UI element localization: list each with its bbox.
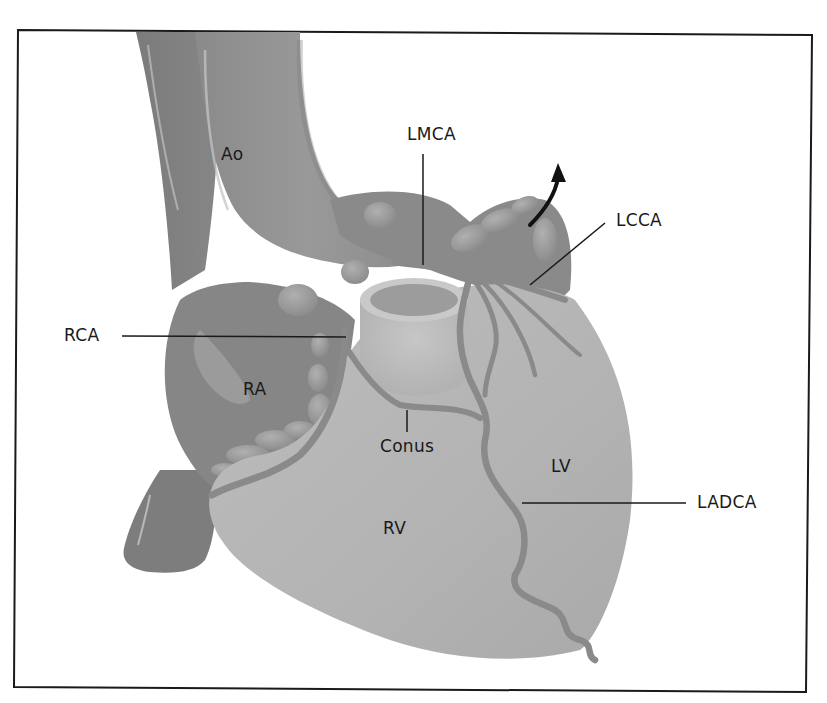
rca-leader <box>122 336 346 337</box>
label-conus: Conus <box>380 438 434 455</box>
label-lmca: LMCA <box>407 126 456 143</box>
label-right-ventricle: RV <box>383 520 406 537</box>
label-aorta: Ao <box>221 146 243 163</box>
label-right-atrium: RA <box>243 381 266 398</box>
label-rca: RCA <box>64 327 99 344</box>
label-ladca: LADCA <box>697 494 757 511</box>
label-lcca: LCCA <box>616 212 662 229</box>
heart-diagram: Ao LMCA LCCA RCA RA Conus LV RV LADCA <box>0 0 827 703</box>
pulmonary-trunk <box>360 278 470 396</box>
heart-illustration <box>0 0 827 703</box>
inferior-vena-cava <box>124 470 217 573</box>
label-left-ventricle: LV <box>551 458 571 475</box>
